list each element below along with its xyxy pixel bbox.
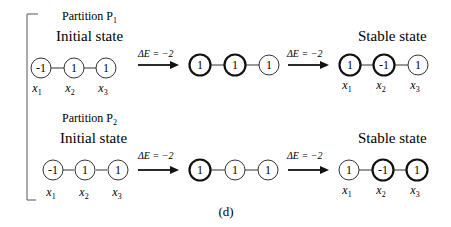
delta-e-label: ΔE = −2 [286, 150, 322, 161]
initial-state-label-1: Initial state [56, 28, 123, 44]
delta-e-label: ΔE = −2 [137, 48, 173, 59]
partition-1-label: Partition P1 [62, 9, 117, 25]
var-x3: x3 [111, 185, 121, 201]
partition-2-label: Partition P2 [62, 111, 117, 127]
stable-state-2: 1 -1 1 x1 x2 x3 [339, 160, 428, 200]
figure-caption: (d) [218, 204, 233, 219]
stable-state-1: 1 -1 1 x1 x2 x3 [340, 55, 429, 95]
var-x1: x1 [341, 183, 351, 199]
node-value: -1 [48, 163, 58, 177]
node-value: 1 [415, 58, 421, 72]
node-value: 1 [71, 61, 77, 75]
initial-state-2: -1 1 1 x1 x2 x3 [43, 160, 128, 201]
delta-e-label: ΔE = −2 [137, 150, 173, 161]
var-x3: x3 [97, 81, 107, 97]
node-value: 1 [103, 61, 109, 75]
node-value: 1 [347, 58, 353, 72]
initial-state-1: -1 1 1 x1 x2 x3 [31, 58, 116, 97]
node-value: -1 [36, 61, 46, 75]
delta-e-label: ΔE = −2 [286, 48, 322, 59]
node-value: 1 [346, 163, 352, 177]
var-x3: x3 [409, 78, 419, 94]
node-value: 1 [232, 58, 238, 72]
intermediate-state-1: 1 1 1 [190, 55, 280, 76]
node-value: 1 [232, 163, 238, 177]
node-value: 1 [266, 58, 272, 72]
arrow-1: ΔE = −2 [137, 48, 179, 69]
bracket [27, 14, 38, 200]
var-x2: x2 [78, 185, 88, 201]
var-x1: x1 [31, 81, 41, 97]
var-x1: x1 [45, 185, 55, 201]
stable-state-label-1: Stable state [358, 28, 427, 44]
var-x3: x3 [409, 183, 419, 199]
intermediate-state-2: 1 1 1 [190, 160, 279, 181]
node-value: 1 [414, 163, 420, 177]
node-value: 1 [197, 163, 203, 177]
node-value: -1 [379, 58, 389, 72]
row-partition-2: Partition P2 Initial state Stable state … [43, 111, 428, 201]
node-value: 1 [115, 163, 121, 177]
node-value: 1 [82, 163, 88, 177]
partition-diagram: Partition P1 Initial state Stable state … [0, 0, 451, 227]
node-value: -1 [378, 163, 388, 177]
initial-state-label-2: Initial state [60, 130, 127, 146]
stable-state-label-2: Stable state [358, 130, 427, 146]
row-partition-1: Partition P1 Initial state Stable state … [31, 9, 428, 97]
var-x2: x2 [375, 183, 385, 199]
var-x2: x2 [64, 81, 74, 97]
var-x1: x1 [341, 78, 351, 94]
arrow-3: ΔE = −2 [137, 150, 179, 174]
node-value: 1 [265, 163, 271, 177]
node-value: 1 [197, 58, 203, 72]
arrow-4: ΔE = −2 [286, 150, 329, 174]
var-x2: x2 [375, 78, 385, 94]
arrow-2: ΔE = −2 [286, 48, 329, 69]
